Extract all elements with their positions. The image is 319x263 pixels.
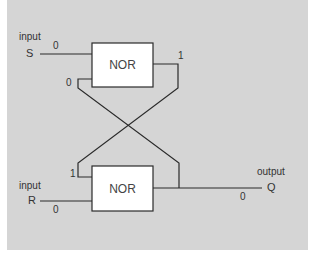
top-output-value: 1 <box>178 51 184 61</box>
top-feedback-value: 0 <box>66 78 72 88</box>
output-q-name: Q <box>267 182 276 193</box>
input-r-caption: input <box>19 181 41 191</box>
output-q-value: 0 <box>240 192 246 202</box>
nor-gate-top-label: NOR <box>92 59 153 71</box>
input-s-value: 0 <box>53 41 59 51</box>
input-r-value: 0 <box>53 205 59 215</box>
bottom-feedback-value: 1 <box>70 169 76 179</box>
circuit-wires <box>0 0 319 263</box>
nor-gate-bottom-label: NOR <box>92 183 153 195</box>
input-s-caption: input <box>19 32 41 42</box>
output-q-caption: output <box>257 167 285 177</box>
input-r-name: R <box>28 195 36 206</box>
input-s-name: S <box>26 48 33 59</box>
